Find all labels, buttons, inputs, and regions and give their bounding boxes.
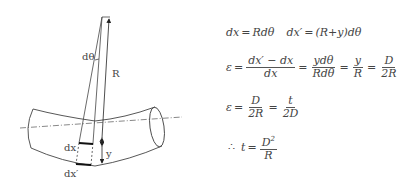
dx-prime-label: dx′ bbox=[64, 168, 79, 179]
fraction: yR bbox=[352, 55, 364, 80]
eq-term: ε bbox=[226, 61, 232, 74]
fraction: D2R bbox=[379, 55, 398, 80]
equation-row-2: ε = dx′ − dxdx = ydθRdθ = yR = D2R bbox=[226, 55, 400, 80]
equations-panel: dx = Rdθ dx′ = (R+y)dθ ε = dx′ − dxdx = … bbox=[226, 0, 403, 187]
y-label: y bbox=[105, 148, 112, 159]
eq-term: dx′ bbox=[286, 26, 302, 39]
pipe-outline bbox=[28, 106, 167, 166]
equation-row-1: dx = Rdθ dx′ = (R+y)dθ bbox=[226, 26, 361, 39]
dx-prime-segment bbox=[76, 164, 91, 165]
eq-term: dx bbox=[226, 26, 239, 39]
fraction: ydθRdθ bbox=[311, 55, 337, 80]
eq-term: ε bbox=[226, 101, 232, 114]
eq-term: Rdθ bbox=[252, 26, 274, 39]
dtheta-label: dθ bbox=[82, 51, 94, 62]
fraction: D2R bbox=[260, 133, 277, 162]
eq-operator: = bbox=[304, 26, 313, 39]
eq-operator: = bbox=[234, 101, 243, 114]
eq-operator: = bbox=[241, 26, 250, 39]
neutral-axis-line bbox=[20, 117, 182, 128]
eq-term: t bbox=[241, 141, 245, 154]
dx-label: dx bbox=[64, 142, 76, 153]
equation-row-3: ε = D2R = t2D bbox=[226, 95, 301, 120]
eq-operator: = bbox=[367, 61, 376, 74]
radius-label: R bbox=[112, 68, 120, 79]
therefore-symbol: ∴ bbox=[228, 141, 235, 154]
eq-operator: = bbox=[247, 141, 256, 154]
equation-row-4: ∴ t = D2R bbox=[226, 133, 278, 162]
eq-operator: = bbox=[340, 61, 349, 74]
bent-pipe-diagram: dθ R dx y dx′ bbox=[0, 0, 200, 187]
eq-term: (R+y)dθ bbox=[315, 26, 361, 39]
fraction: D2R bbox=[246, 95, 265, 120]
eq-operator: = bbox=[268, 101, 277, 114]
dx-segment bbox=[79, 143, 93, 144]
eq-operator: = bbox=[298, 61, 307, 74]
eq-operator: = bbox=[234, 61, 243, 74]
fraction: dx′ − dxdx bbox=[246, 55, 295, 80]
fraction: t2D bbox=[281, 95, 301, 120]
